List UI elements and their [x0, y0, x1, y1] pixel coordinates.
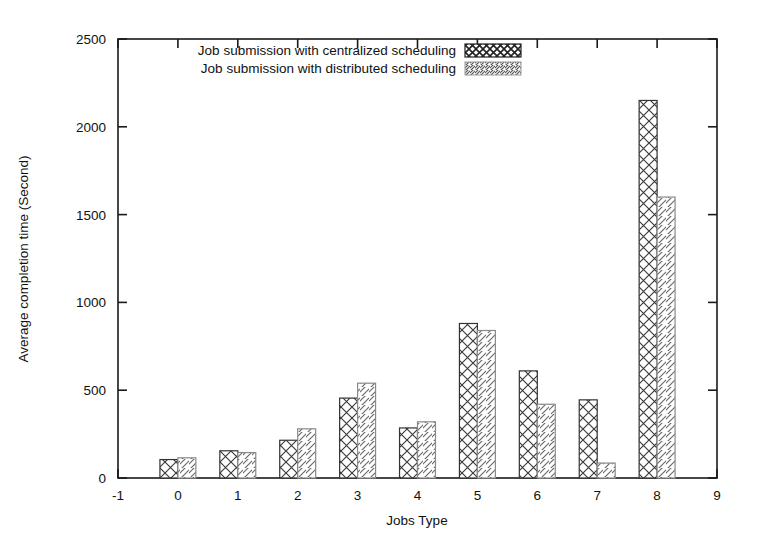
bar-distributed — [178, 458, 196, 478]
y-tick-label: 2000 — [76, 120, 106, 135]
x-tick-label: 2 — [294, 488, 302, 503]
legend-label-centralized: Job submission with centralized scheduli… — [198, 43, 456, 58]
bar-centralized — [639, 100, 657, 478]
bar-distributed — [597, 463, 615, 478]
bar-distributed — [657, 197, 675, 478]
x-tick-label: 9 — [713, 488, 721, 503]
bar-distributed — [238, 453, 256, 478]
x-tick-label: 4 — [414, 488, 422, 503]
diagonal-swatch — [465, 62, 521, 75]
bar-centralized — [280, 440, 298, 478]
x-tick-label: 0 — [174, 488, 182, 503]
bar-centralized — [220, 451, 238, 478]
x-tick-label: 3 — [354, 488, 362, 503]
bar-distributed — [298, 429, 316, 478]
x-tick-label: 1 — [234, 488, 242, 503]
y-tick-label: 2500 — [76, 32, 106, 47]
bar-distributed — [418, 422, 436, 478]
legend-label-distributed: Job submission with distributed scheduli… — [201, 61, 456, 76]
bar-centralized — [160, 460, 178, 478]
bar-chart-canvas: 05001000150020002500 -10123456789 Jobs T… — [0, 0, 770, 555]
bar-distributed — [358, 383, 376, 478]
y-axis-title: Average completion time (Second) — [16, 156, 31, 363]
y-tick-label: 1500 — [76, 208, 106, 223]
x-tick-label: 7 — [593, 488, 601, 503]
bar-centralized — [519, 371, 537, 478]
x-tick-label: 5 — [474, 488, 482, 503]
x-tick-label: 6 — [534, 488, 542, 503]
bar-centralized — [400, 428, 418, 478]
bar-centralized — [459, 323, 477, 478]
bar-distributed — [537, 404, 555, 478]
x-axis-title: Jobs Type — [386, 513, 447, 528]
crosshatch-swatch — [465, 44, 521, 57]
bar-centralized — [579, 400, 597, 478]
y-tick-label: 500 — [83, 383, 106, 398]
x-tick-label: -1 — [112, 488, 124, 503]
bar-centralized — [340, 398, 358, 478]
y-tick-label: 1000 — [76, 295, 106, 310]
bar-distributed — [477, 331, 495, 479]
chart-figure: 05001000150020002500 -10123456789 Jobs T… — [0, 0, 770, 555]
y-tick-label: 0 — [98, 471, 106, 486]
x-tick-label: 8 — [653, 488, 661, 503]
